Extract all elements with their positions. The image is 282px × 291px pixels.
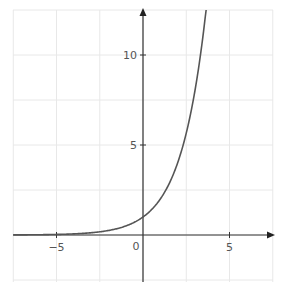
x-tick-label: 5: [226, 241, 233, 254]
y-axis-arrow-icon: [140, 8, 147, 16]
y-tick-label: 10: [123, 49, 137, 62]
x-tick-label: −5: [48, 241, 64, 254]
x-axis-arrow-icon: [267, 232, 275, 239]
function-curve: [13, 10, 206, 235]
chart: −55510 0: [0, 0, 282, 291]
ticks: −55510: [48, 49, 233, 254]
origin-label: 0: [133, 240, 140, 253]
y-tick-label: 5: [130, 139, 137, 152]
